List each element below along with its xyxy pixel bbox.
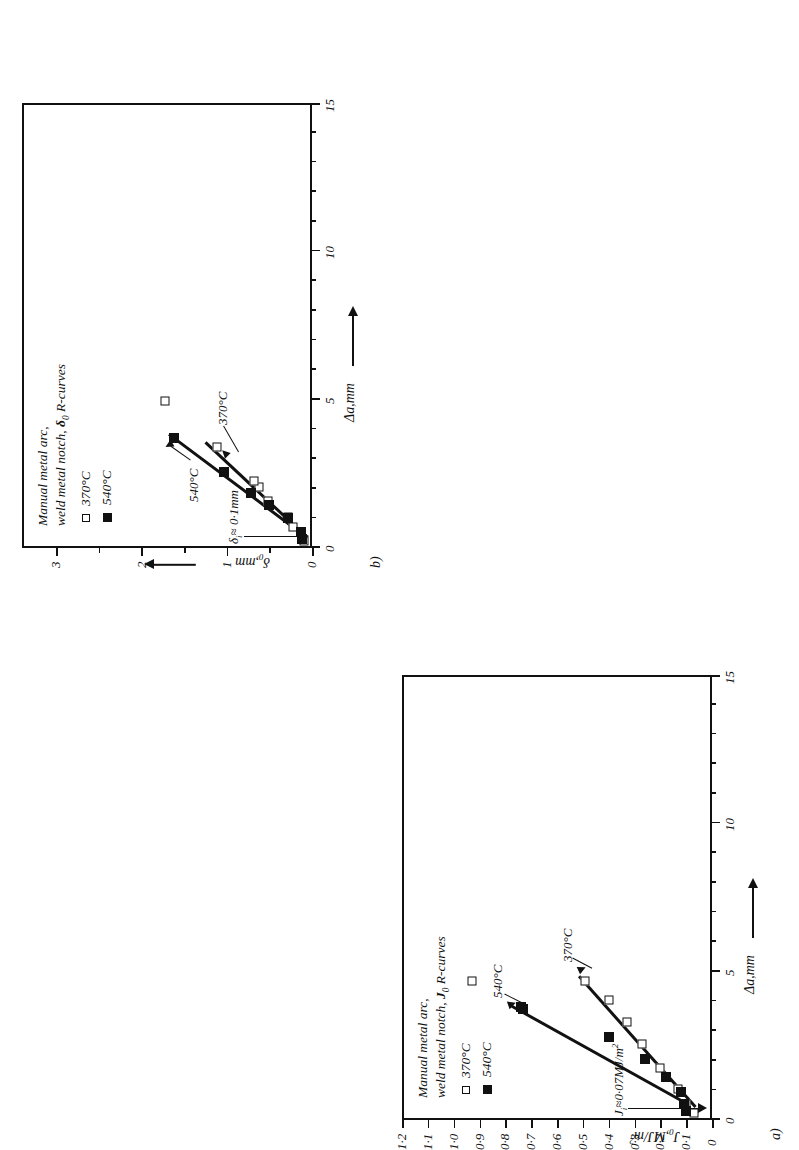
legend-row-370: 370°C bbox=[456, 1042, 477, 1094]
ytick-minor bbox=[184, 548, 186, 553]
data-point-540 bbox=[516, 1002, 526, 1012]
xtick-minor bbox=[312, 339, 316, 341]
panel-b-title: Manual metal arc, weld metal notch, δ0 R… bbox=[34, 364, 73, 526]
legend-row-540: 540°C bbox=[477, 1042, 498, 1094]
ytick-major-0 bbox=[312, 548, 314, 556]
data-point-540 bbox=[676, 1087, 686, 1097]
yticklabel-0p4: 0·4 bbox=[601, 1134, 617, 1150]
yticklabel-0: 0 bbox=[304, 562, 320, 569]
xtick-major-5 bbox=[712, 970, 720, 972]
data-point-540 bbox=[604, 1032, 614, 1042]
ytick-major-1p1 bbox=[428, 1120, 430, 1128]
xtick-minor bbox=[312, 131, 316, 133]
data-point-540 bbox=[283, 513, 293, 523]
y-axis-sub: 0 bbox=[669, 1127, 674, 1137]
y-axis-sub: 0 bbox=[259, 552, 264, 562]
xtick-minor bbox=[712, 733, 716, 735]
xtick-minor bbox=[712, 1029, 716, 1031]
xtick-minor bbox=[712, 851, 716, 853]
x-axis-arrow-line bbox=[352, 314, 354, 366]
open-square-icon bbox=[82, 514, 90, 522]
data-point-370 bbox=[581, 976, 590, 985]
initiation-value-b: δi≈ 0·1mm bbox=[226, 490, 244, 544]
yticklabel-0p7: 0·7 bbox=[523, 1134, 539, 1150]
data-point-370 bbox=[622, 1018, 631, 1027]
data-point-540 bbox=[246, 488, 256, 498]
filled-square-icon bbox=[483, 1085, 492, 1094]
xtick-minor bbox=[312, 161, 316, 163]
data-point-540 bbox=[219, 467, 229, 477]
initiation-arrow-head-b bbox=[300, 532, 309, 542]
ytick-major-0 bbox=[712, 1120, 714, 1128]
yticklabel-1: 1 bbox=[219, 562, 235, 569]
y-axis-unit: ,MJ/m bbox=[634, 1129, 669, 1144]
xtick-minor bbox=[712, 881, 716, 883]
panel-b: 0 5 10 15 Δa,mm 0 1 2 3 δ0,mm Manual met… bbox=[0, 0, 399, 572]
legend-label-370: 370°C bbox=[456, 1043, 477, 1078]
y-axis-label-b: δ0,mm bbox=[235, 552, 270, 570]
xtick-minor bbox=[312, 517, 316, 519]
initiation-arrow-head-a bbox=[698, 1104, 707, 1114]
x-axis-arrow-head bbox=[348, 306, 358, 316]
curve-label-540-b: 540°C bbox=[186, 469, 202, 502]
xticklabel-10: 10 bbox=[322, 246, 338, 259]
data-point-370 bbox=[638, 1040, 647, 1049]
x-axis-arrow-head bbox=[748, 878, 758, 888]
xtick-minor bbox=[312, 190, 316, 192]
xtick-major-10 bbox=[312, 250, 320, 252]
open-square-icon bbox=[462, 1086, 470, 1094]
ytick-major-0p4 bbox=[609, 1120, 611, 1128]
ytick-major-0p9 bbox=[480, 1120, 482, 1128]
data-point-370-outlier bbox=[161, 397, 170, 406]
yticklabel-1p1: 1·1 bbox=[420, 1134, 436, 1150]
yticklabel-0p6: 0·6 bbox=[549, 1134, 565, 1150]
xticklabel-0: 0 bbox=[322, 546, 338, 553]
xtick-minor bbox=[312, 368, 316, 370]
ytick-major-1p0 bbox=[454, 1120, 456, 1128]
panel-tag-a: a) bbox=[768, 1128, 784, 1140]
panel-a-legend: 370°C 540°C bbox=[456, 1042, 498, 1094]
data-point-370 bbox=[604, 996, 613, 1005]
xtick-minor bbox=[312, 220, 316, 222]
yticklabel-0p1: 0·1 bbox=[678, 1134, 694, 1150]
title-line-2: weld metal notch, J0 R-curves bbox=[432, 936, 453, 1098]
ytick-major-3 bbox=[56, 548, 58, 556]
xtick-major-5 bbox=[312, 398, 320, 400]
data-point-370 bbox=[250, 477, 259, 486]
legend-row-540: 540°C bbox=[97, 470, 118, 522]
xticklabel-15: 15 bbox=[322, 99, 338, 112]
data-point-540 bbox=[640, 1054, 650, 1064]
ytick-major-0p7 bbox=[531, 1120, 533, 1128]
xtick-major-15 bbox=[312, 103, 320, 105]
data-point-540 bbox=[661, 1072, 671, 1082]
xticklabel-5: 5 bbox=[722, 970, 738, 977]
initiation-arrow-line-a bbox=[628, 1108, 700, 1109]
ytick-major-2 bbox=[141, 548, 143, 556]
xtick-minor bbox=[312, 457, 316, 459]
yticklabel-1p0: 1·0 bbox=[446, 1134, 462, 1150]
xtick-minor bbox=[712, 792, 716, 794]
x-axis-label-a: Δa,mm bbox=[742, 955, 758, 994]
panel-tag-b: b) bbox=[368, 556, 384, 568]
x-axis-label-text: Δa,mm bbox=[742, 955, 757, 994]
xtick-minor bbox=[712, 940, 716, 942]
yticklabel-1p2: 1·2 bbox=[394, 1134, 410, 1150]
panel-a-title: Manual metal arc, weld metal notch, J0 R… bbox=[414, 936, 453, 1098]
ytick-major-0p6 bbox=[557, 1120, 559, 1128]
xtick-minor bbox=[712, 1089, 716, 1091]
x-axis-label-text: Δa,mm bbox=[342, 383, 357, 422]
panel-b-chart: 0 5 10 15 Δa,mm 0 1 2 3 δ0,mm Manual met… bbox=[0, 0, 399, 572]
legend-label-370: 370°C bbox=[76, 471, 97, 506]
legend-label-540: 540°C bbox=[477, 1042, 498, 1077]
y-axis-sym: J bbox=[674, 1129, 680, 1144]
y-axis-unit: ,mm bbox=[235, 555, 259, 570]
yticklabel-0p5: 0·5 bbox=[575, 1134, 591, 1150]
panel-a-chart: 0 5 10 15 Δa,mm 0 0·1 0·2 0·3 0·4 0·5 0·… bbox=[380, 572, 799, 1144]
data-point-540 bbox=[264, 500, 274, 510]
y-axis-arrow-line bbox=[150, 564, 196, 566]
initiation-value-a: Ji≈0·07MJ/m2 bbox=[610, 1044, 629, 1116]
ytick-major-0p1 bbox=[686, 1120, 688, 1128]
y-axis-arrow-head bbox=[144, 560, 154, 570]
ytick-major-1 bbox=[227, 548, 229, 556]
yticklabel-0p9: 0·9 bbox=[472, 1134, 488, 1150]
